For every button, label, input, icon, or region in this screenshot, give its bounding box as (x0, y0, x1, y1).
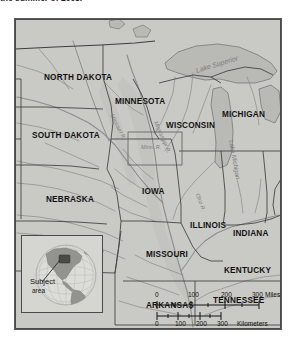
globe-icon (22, 236, 104, 314)
state-label-nebraska: NEBRASKA (46, 196, 94, 204)
scale-bar-kilometers-labels: 0 100 200 300 Kilometers (155, 320, 279, 329)
scale-bar: 0 100 200 300 Miles (155, 291, 279, 329)
scale-miles-unit: Miles (265, 291, 280, 298)
figure-caption-text: the summer of 2008. (0, 0, 150, 3)
scale-bar-miles-labels: 0 100 200 300 Miles (155, 291, 279, 300)
scale-km-unit: Kilometers (237, 320, 268, 327)
water-label-minnesota-river-detail: Minn. R. (141, 145, 161, 150)
scale-km-tick-0: 0 (155, 320, 159, 327)
state-label-indiana: INDIANA (233, 230, 269, 238)
state-label-iowa: IOWA (142, 188, 165, 196)
state-label-missouri: MISSOURI (146, 251, 188, 259)
locator-inset-label-line2: area (30, 287, 55, 296)
locator-inset-label-line1: Subject (30, 277, 55, 286)
state-label-north-dakota: NORTH DAKOTA (44, 74, 112, 82)
scale-km-tick-200: 200 (196, 320, 207, 327)
locator-inset-label: Subject area (30, 278, 55, 295)
scale-miles-tick-0: 0 (155, 291, 159, 298)
state-label-illinois: ILLINOIS (190, 222, 226, 230)
state-label-kentucky: KENTUCKY (224, 267, 271, 275)
scale-miles-tick-100: 100 (188, 291, 199, 298)
scale-miles-tick-200: 200 (221, 291, 232, 298)
figure-caption-strip: the summer of 2008. (0, 0, 150, 3)
state-label-wisconsin: WISCONSIN (166, 122, 215, 130)
scale-bar-miles-ruler (155, 301, 279, 309)
map-figure: the summer of 2008. (0, 0, 294, 347)
state-label-michigan: MICHIGAN (222, 111, 265, 119)
scale-bar-kilometers-ruler (155, 312, 279, 320)
scale-km-tick-300: 300 (217, 320, 228, 327)
scale-km-tick-100: 100 (175, 320, 186, 327)
locator-inset: Subject area (21, 235, 103, 313)
state-label-south-dakota: SOUTH DAKOTA (32, 132, 100, 140)
map-canvas: NORTH DAKOTA SOUTH DAKOTA NEBRASKA KANSA… (14, 18, 282, 330)
state-label-minnesota: MINNESOTA (115, 98, 165, 106)
scale-miles-tick-300: 300 (252, 291, 263, 298)
subject-area-highlight (59, 255, 70, 263)
